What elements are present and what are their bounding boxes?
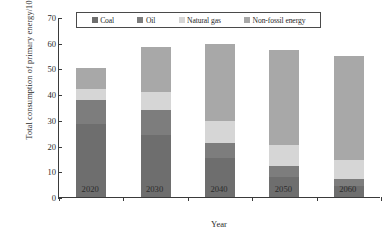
x-tick-label: 2030 — [132, 184, 178, 194]
plot-area: 010203040506070 — [58, 18, 380, 198]
x-tick-mark — [381, 197, 382, 201]
legend-label: Oil — [146, 16, 155, 25]
bar-stack — [76, 17, 106, 197]
legend-swatch-icon — [244, 17, 250, 23]
y-tick-mark — [58, 147, 62, 148]
x-tick-label: 2040 — [196, 184, 242, 194]
bar-segment — [334, 56, 364, 159]
y-tick-mark — [58, 44, 62, 45]
legend-label: Non-fossil energy — [253, 16, 306, 25]
y-tick-mark — [58, 95, 62, 96]
y-axis-title: Total consumption of primary energy/108t… — [24, 0, 35, 158]
y-tick-mark — [58, 18, 62, 19]
y-tick-label: 10 — [32, 168, 56, 177]
x-tick-label: 2020 — [67, 184, 113, 194]
y-tick-label: 30 — [32, 117, 56, 126]
legend-swatch-icon — [137, 17, 143, 23]
bar-stack — [205, 17, 235, 197]
bar-segment — [141, 47, 171, 92]
y-tick-label: 60 — [32, 39, 56, 48]
legend-label: Natural gas — [187, 16, 221, 25]
x-axis-title: Year — [58, 219, 380, 229]
bar-segment — [269, 166, 299, 177]
bar-segment — [141, 92, 171, 111]
x-tick-mark — [123, 197, 124, 201]
bar-segment — [334, 160, 364, 179]
y-tick-mark — [58, 121, 62, 122]
y-tick-label: 20 — [32, 142, 56, 151]
x-tick-label: 2050 — [260, 184, 306, 194]
bar-stack — [334, 17, 364, 197]
y-tick-mark — [58, 69, 62, 70]
bar-segment — [76, 100, 106, 124]
legend-item[interactable]: Coal — [92, 16, 114, 25]
legend-swatch-icon — [92, 17, 98, 23]
y-tick-label: 70 — [32, 14, 56, 23]
bar-segment — [269, 145, 299, 166]
legend-label: Coal — [100, 16, 114, 25]
bar-segment — [141, 110, 171, 135]
y-tick-mark — [58, 172, 62, 173]
bar-stack — [141, 17, 171, 197]
bar-segment — [205, 143, 235, 159]
chart-legend: CoalOilNatural gasNon-fossil energy — [76, 12, 321, 28]
y-tick-label: 40 — [32, 91, 56, 100]
bar-stack — [269, 17, 299, 197]
legend-swatch-icon — [179, 17, 185, 23]
legend-item[interactable]: Oil — [137, 16, 155, 25]
x-tick-mark — [317, 197, 318, 201]
legend-item[interactable]: Natural gas — [179, 16, 221, 25]
bar-segment — [205, 44, 235, 121]
x-tick-mark — [252, 197, 253, 201]
bar-segment — [269, 50, 299, 146]
bar-segment — [205, 121, 235, 143]
x-tick-mark — [188, 197, 189, 201]
chart-figure: Total consumption of primary energy/108t… — [0, 0, 392, 237]
y-tick-label: 50 — [32, 65, 56, 74]
y-tick-label: 0 — [32, 194, 56, 203]
legend-item[interactable]: Non-fossil energy — [244, 16, 305, 25]
x-tick-mark — [59, 197, 60, 201]
x-tick-label: 2060 — [325, 184, 371, 194]
bar-segment — [76, 89, 106, 100]
bar-segment — [76, 68, 106, 88]
